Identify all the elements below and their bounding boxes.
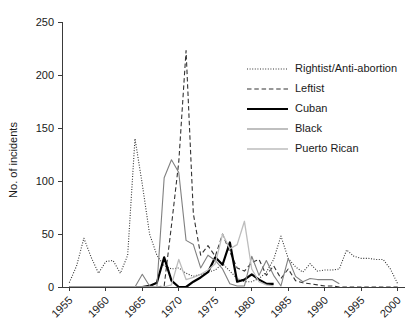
x-tick-label: 1990 [304, 294, 330, 320]
legend-label-rightist-anti-abortion: Rightist/Anti-abortion [295, 62, 397, 74]
x-tick-label: 1995 [341, 294, 367, 320]
x-tick-label: 1985 [268, 294, 294, 320]
x-tick-label: 1965 [122, 294, 148, 320]
x-tick-label: 1970 [158, 294, 184, 320]
y-tick-label: 200 [36, 69, 54, 81]
legend-label-leftist: Leftist [295, 82, 324, 94]
chart-legend: Rightist/Anti-abortionLeftistCubanBlackP… [247, 62, 397, 154]
y-axis-title: No. of incidents [7, 122, 19, 198]
legend-label-puerto-rican: Puerto Rican [295, 142, 359, 154]
legend-label-cuban: Cuban [295, 102, 327, 114]
legend-label-black: Black [295, 122, 322, 134]
x-tick-label: 1975 [195, 294, 221, 320]
chart-canvas: 0501001502002501955196019651970197519801… [0, 0, 419, 326]
x-tick-label: 2000 [377, 294, 403, 320]
incident-line-chart: 0501001502002501955196019651970197519801… [0, 0, 419, 326]
y-tick-label: 50 [42, 228, 54, 240]
y-tick-label: 0 [48, 281, 54, 293]
series-line-cuban [69, 242, 273, 287]
x-tick-label: 1955 [49, 294, 75, 320]
x-tick-label: 1980 [231, 294, 257, 320]
y-tick-label: 100 [36, 175, 54, 187]
y-tick-label: 150 [36, 122, 54, 134]
x-tick-label: 1960 [85, 294, 111, 320]
series-line-leftist [69, 51, 397, 287]
series-layer [69, 51, 397, 287]
y-tick-label: 250 [36, 16, 54, 28]
series-line-black [69, 160, 339, 287]
